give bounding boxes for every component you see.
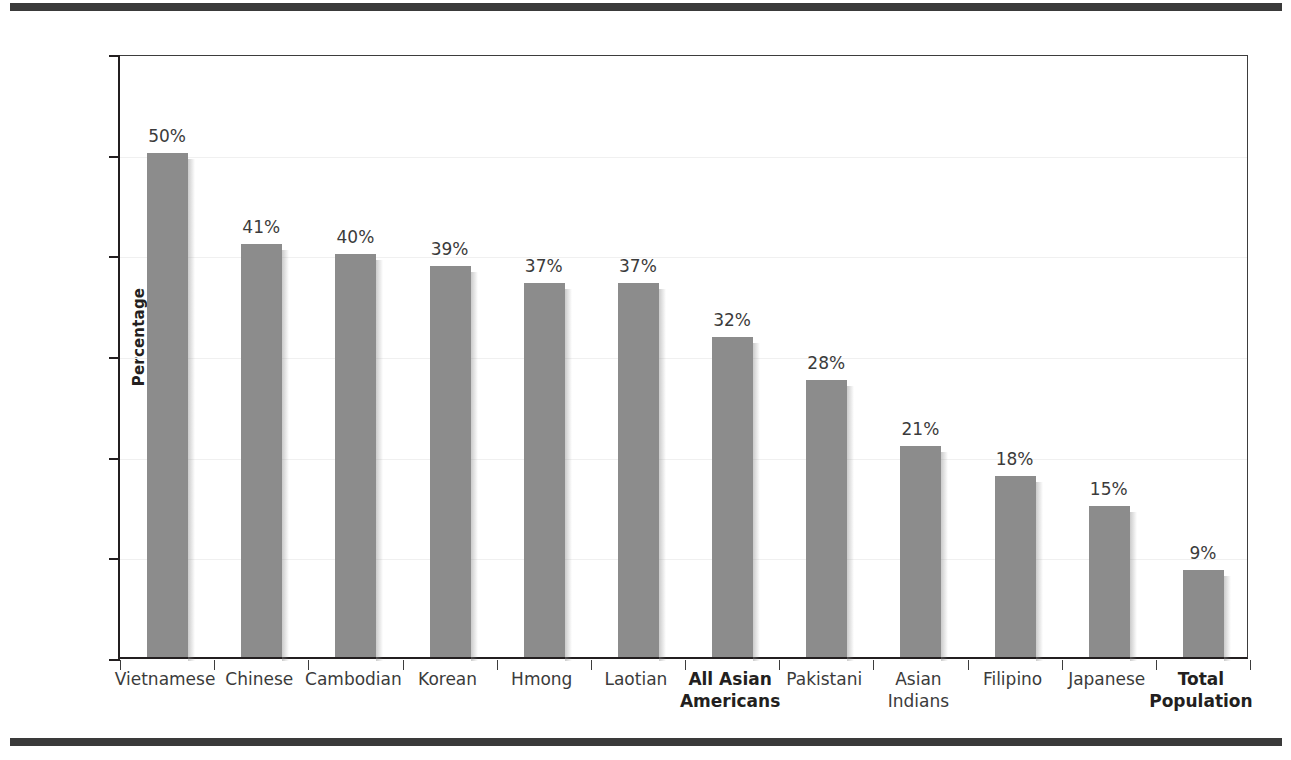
bottom-divider-rule [10, 738, 1282, 746]
bar[interactable] [900, 446, 941, 657]
bar[interactable] [618, 283, 659, 657]
bar-slot: 41% [214, 56, 308, 657]
y-tick-mark [109, 458, 120, 460]
y-tick-mark [109, 357, 120, 359]
bar-slot: 50% [120, 56, 214, 657]
bar[interactable] [241, 244, 282, 657]
y-tick-mark [109, 156, 120, 158]
bar[interactable] [995, 476, 1036, 657]
bar-value-label: 9% [1148, 545, 1258, 562]
bar[interactable] [712, 337, 753, 657]
plot-area: Percentage 0102030405060 50%41%40%39%37%… [118, 55, 1248, 659]
bar-slot: 40% [308, 56, 402, 657]
bar-value-label: 18% [960, 451, 1070, 468]
x-category-label-line: Americans [655, 690, 805, 712]
bar-slot: 15% [1062, 56, 1156, 657]
x-category-label-line: Indians [843, 690, 993, 712]
bar-slot: 28% [779, 56, 873, 657]
bar-value-label: 50% [112, 128, 222, 145]
y-tick-mark [109, 558, 120, 560]
x-category-label-line: Total [1126, 668, 1276, 690]
bar-slot: 39% [403, 56, 497, 657]
top-divider-rule [10, 3, 1282, 11]
bar-slot: 18% [968, 56, 1062, 657]
bar[interactable] [1183, 570, 1224, 657]
bar-slot: 21% [873, 56, 967, 657]
bar-slot: 32% [685, 56, 779, 657]
bar[interactable] [806, 380, 847, 657]
x-category-label: TotalPopulation [1126, 668, 1276, 712]
bar-slot: 37% [591, 56, 685, 657]
bar-value-label: 21% [865, 421, 975, 438]
bar[interactable] [335, 254, 376, 657]
figure: Percentage 0102030405060 50%41%40%39%37%… [0, 0, 1291, 760]
bar-value-label: 32% [677, 312, 787, 329]
bar-slot: 37% [497, 56, 591, 657]
bar-value-label: 15% [1054, 481, 1164, 498]
bar[interactable] [1089, 506, 1130, 657]
bar-value-label: 39% [395, 241, 505, 258]
bar[interactable] [147, 153, 188, 657]
y-tick-mark [109, 55, 120, 57]
bar[interactable] [430, 266, 471, 657]
bar[interactable] [524, 283, 565, 657]
bar-value-label: 37% [583, 258, 693, 275]
bar-value-label: 28% [771, 355, 881, 372]
y-tick-mark [109, 256, 120, 258]
y-tick-mark [109, 659, 120, 661]
bar-slot: 9% [1156, 56, 1250, 657]
x-category-label-line: Population [1126, 690, 1276, 712]
